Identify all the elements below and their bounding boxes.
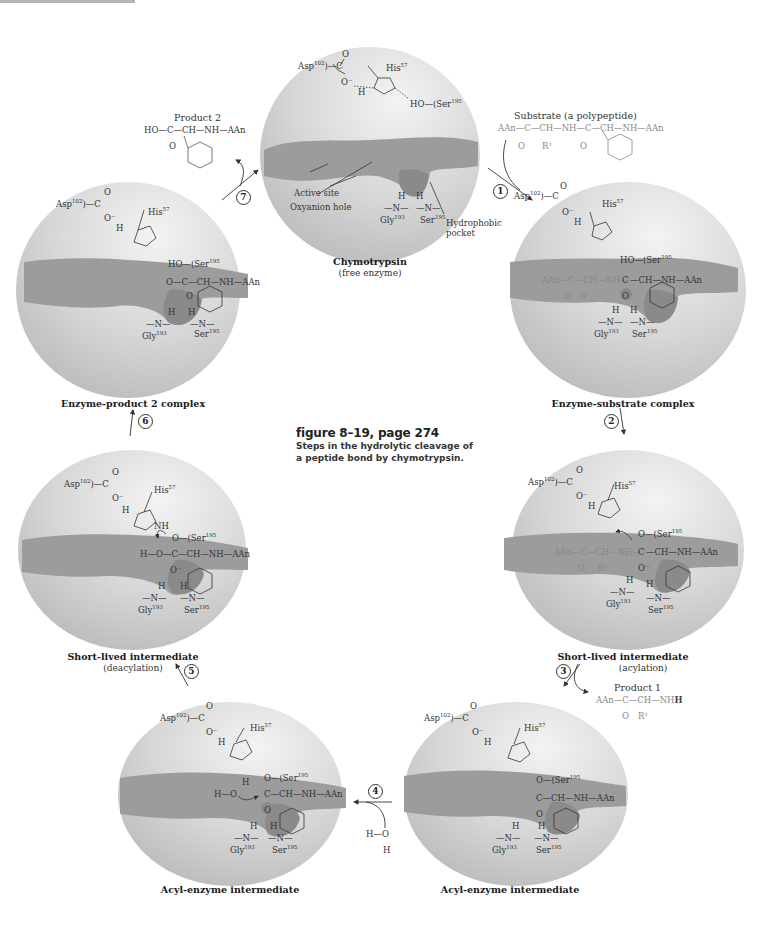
gly-h: H <box>168 308 175 317</box>
gly-residue: Gly193 <box>380 216 405 225</box>
gly-n: —N— <box>142 594 166 603</box>
deacyl-chain: H—O—C—CH—NH—AAn <box>140 550 250 559</box>
phenyl-ring-icon <box>498 110 738 170</box>
gly-h: H <box>612 306 619 315</box>
figure-caption: figure 8–19, page 274 Steps in the hydro… <box>296 426 476 464</box>
panel-deacylation: Asp102)—C O O⁻ H His57 NH O—(Ser195 H—O—… <box>8 450 258 670</box>
ser-n: —N— <box>180 594 204 603</box>
panel-free-enzyme: Asp102)—C O O⁻ H His57 HO—(Ser195 Active… <box>250 42 490 272</box>
phenyl-ring-icon <box>144 112 254 182</box>
water-molecule: H—O <box>366 830 389 839</box>
product1-title: Product 1 <box>614 682 661 693</box>
product-chain: O—C—CH—NH—AAn <box>166 278 260 287</box>
panel-subtitle: (free enzyme) <box>250 268 490 278</box>
step-3-badge: 3 <box>556 664 571 679</box>
his-h: H <box>588 502 595 511</box>
ser-residue: O—(Ser195 <box>172 534 216 543</box>
step-5-badge: 5 <box>184 664 199 679</box>
ser-backbone-residue: Ser195 <box>648 606 673 615</box>
his-h: H <box>484 738 491 747</box>
product1-r1: R¹ <box>638 712 648 721</box>
ser-residue: HO—(Ser195 <box>620 256 672 265</box>
tetrahedral-c: C <box>638 548 645 557</box>
oxyanion-o: O <box>186 292 193 301</box>
panel-enzyme-substrate: Asp102)—C O O⁻ H His57 HO—(Ser195 AAn—C—… <box>498 180 748 410</box>
panel-subtitle: (deacylation) <box>8 663 258 673</box>
hydrophobic-pocket-label: Hydrophobic <box>446 218 502 228</box>
acyl-chain: C—CH—NH—AAn <box>264 790 343 799</box>
gly-residue: Gly193 <box>606 600 631 609</box>
panel-subtitle: (acylation) <box>518 663 760 673</box>
ser-residue: HO—(Ser195 <box>168 260 220 269</box>
his-residue: His57 <box>148 208 170 217</box>
asp-residue: Asp102)—C <box>298 62 343 71</box>
his-h: H <box>122 506 129 515</box>
gly-h: H <box>158 582 165 591</box>
his-residue: His57 <box>386 64 408 73</box>
header-bar <box>0 0 135 3</box>
his-residue: His57 <box>154 486 176 495</box>
ser-h: H <box>180 582 187 591</box>
carbonyl-c: C <box>622 276 629 285</box>
carbonyl-o-acyl: O <box>264 806 271 815</box>
carboxylate-o: O⁻ <box>562 208 573 217</box>
carbonyl-o: O <box>206 702 213 711</box>
ser-n: —N— <box>268 834 292 843</box>
carbonyl-o: O <box>112 468 119 477</box>
panel-title: Enzyme-product 2 complex <box>8 398 258 409</box>
carbonyl-o: O <box>104 188 111 197</box>
gly-residue: Gly193 <box>142 332 167 341</box>
ser-h: H <box>646 580 653 589</box>
his-nh: NH <box>154 522 169 531</box>
carboxylate-o: O⁻ <box>341 78 352 87</box>
gly-residue: Gly193 <box>492 846 517 855</box>
carboxylate-o: O⁻ <box>104 214 115 223</box>
ser-residue: HO—(Ser195 <box>410 100 462 109</box>
carboxylate-o: O⁻ <box>112 494 123 503</box>
his-h: H <box>218 738 225 747</box>
his-residue: His57 <box>250 724 272 733</box>
step-7-badge: 7 <box>236 190 251 205</box>
panel-title: Short-lived intermediate <box>498 651 748 662</box>
ser-n: —N— <box>646 594 670 603</box>
ser-h: H <box>270 822 277 831</box>
ser-residue: O—(Ser195 <box>638 530 682 539</box>
attacking-water: H—O <box>214 790 237 799</box>
panel-enzyme-product2: Asp102)—C O O⁻ H His57 HO—(Ser195 O—C—CH… <box>8 180 258 410</box>
gly-residue: Gly193 <box>138 606 163 615</box>
his-h: H <box>574 218 581 227</box>
substrate-r1: R¹ <box>580 292 590 301</box>
asp-residue: Asp102)—C <box>56 200 101 209</box>
ser-n: —N— <box>534 834 558 843</box>
asp-residue: Asp102)—C <box>514 192 559 201</box>
substrate-o: O <box>578 564 585 573</box>
step-1-badge: 1 <box>493 184 508 199</box>
step-6-badge: 6 <box>138 414 153 429</box>
gly-n: —N— <box>496 834 520 843</box>
oxyanion-o: O⁻ <box>170 566 181 575</box>
gly-n: —N— <box>384 204 408 213</box>
gly-h: H <box>626 576 633 585</box>
ser-n: —N— <box>416 204 440 213</box>
carbonyl-o: O <box>342 50 349 59</box>
ser-residue: O—(Ser195 <box>264 774 308 783</box>
carboxylate-o: O⁻ <box>576 492 587 501</box>
gly-n: —N— <box>146 320 170 329</box>
hydrophobic-pocket-label-2: pocket <box>446 228 475 238</box>
carbonyl-o: O <box>470 702 477 711</box>
ser-h: H <box>630 306 637 315</box>
substrate-right: —CH—NH—AAn <box>646 548 718 557</box>
panel-title: Chymotrypsin <box>250 256 490 267</box>
panel-title: Short-lived intermediate <box>8 651 258 662</box>
step-2-badge: 2 <box>604 414 619 429</box>
his-residue: His57 <box>602 200 624 209</box>
carbonyl-o: O <box>576 466 583 475</box>
ser-backbone-residue: Ser195 <box>420 216 445 225</box>
enzyme-sphere <box>8 450 258 670</box>
his-residue: His57 <box>524 724 546 733</box>
his-residue: His57 <box>614 482 636 491</box>
carbonyl-o: O <box>560 182 567 191</box>
water-h: H <box>242 778 249 787</box>
ser-n: —N— <box>630 318 654 327</box>
panel-title: Acyl-enzyme intermediate <box>110 884 350 895</box>
